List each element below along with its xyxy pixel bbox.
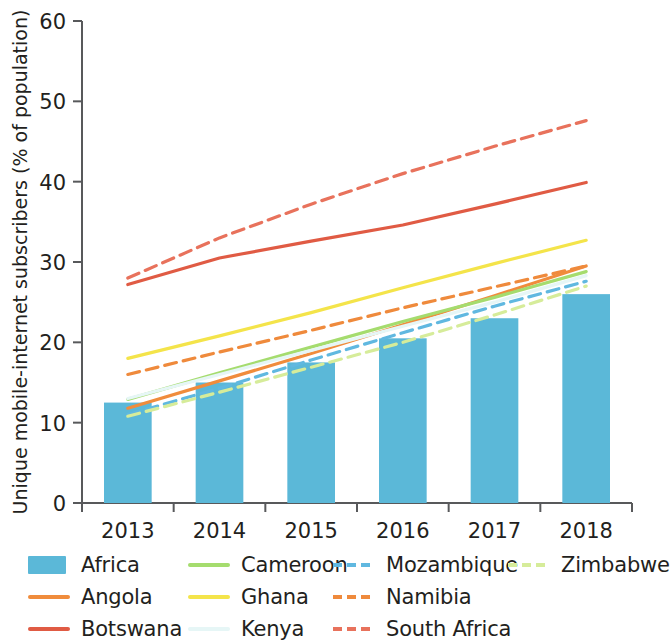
legend-entry-africa[interactable]: Africa bbox=[28, 549, 188, 581]
legend-label: Africa bbox=[81, 553, 140, 577]
legend-entry-south-africa[interactable]: South Africa bbox=[333, 613, 508, 641]
y-axis-ticks bbox=[73, 21, 82, 503]
y-tick-label-10: 10 bbox=[39, 412, 66, 436]
y-tick-label-60: 60 bbox=[39, 10, 66, 34]
y-tick-label-50: 50 bbox=[39, 90, 66, 114]
y-tick-label-40: 40 bbox=[39, 171, 66, 195]
x-tick-label-2015: 2015 bbox=[284, 519, 337, 543]
legend-swatch-cameroon-icon bbox=[188, 556, 232, 574]
legend-dashed-line-icon bbox=[333, 563, 375, 567]
bar-2014 bbox=[196, 383, 244, 504]
legend-label: Kenya bbox=[241, 617, 304, 641]
legend-line-icon bbox=[28, 627, 70, 631]
plot-area: Unique mobile-internet subscribers (% of… bbox=[0, 0, 644, 545]
legend-entry-ghana[interactable]: Ghana bbox=[188, 581, 333, 613]
legend-label: Zimbabwe bbox=[561, 553, 670, 577]
legend-bar-icon bbox=[28, 556, 66, 574]
legend-swatch-ghana-icon bbox=[188, 588, 232, 606]
legend-swatch-angola-icon bbox=[28, 588, 72, 606]
chart-legend: AfricaCameroonMozambiqueZimbabweAngolaGh… bbox=[0, 545, 644, 641]
legend-swatch-botswana-icon bbox=[28, 620, 72, 638]
legend-entry-angola[interactable]: Angola bbox=[28, 581, 188, 613]
legend-swatch-kenya-icon bbox=[188, 620, 232, 638]
legend-entry-cameroon[interactable]: Cameroon bbox=[188, 549, 333, 581]
bars-group bbox=[104, 294, 610, 503]
legend-label: Botswana bbox=[81, 617, 182, 641]
legend-swatch-namibia-icon bbox=[333, 588, 377, 606]
line-botswana bbox=[128, 182, 586, 284]
y-axis-title-group: Unique mobile-internet subscribers (% of… bbox=[9, 10, 31, 515]
legend-label: Ghana bbox=[241, 585, 309, 609]
x-tick-label-2014: 2014 bbox=[193, 519, 246, 543]
legend-line-icon bbox=[188, 627, 230, 631]
legend-line-icon bbox=[188, 595, 230, 599]
x-tick-label-2016: 2016 bbox=[376, 519, 429, 543]
legend-label: South Africa bbox=[386, 617, 511, 641]
legend-entry-namibia[interactable]: Namibia bbox=[333, 581, 508, 613]
bar-2015 bbox=[287, 362, 335, 503]
y-tick-label-20: 20 bbox=[39, 331, 66, 355]
legend-swatch-mozambique-icon bbox=[333, 556, 377, 574]
legend-label: Mozambique bbox=[386, 553, 518, 577]
legend-dashed-line-icon bbox=[333, 595, 375, 599]
legend-dashed-line-icon bbox=[508, 563, 550, 567]
y-tick-label-30: 30 bbox=[39, 251, 66, 275]
x-axis-tick-labels: 201320142015201620172018 bbox=[101, 519, 613, 543]
legend-entry-zimbabwe[interactable]: Zimbabwe bbox=[508, 549, 672, 581]
bar-2017 bbox=[471, 318, 519, 503]
chart-svg: Unique mobile-internet subscribers (% of… bbox=[0, 0, 644, 545]
legend-entry-botswana[interactable]: Botswana bbox=[28, 613, 188, 641]
y-axis-title: Unique mobile-internet subscribers (% of… bbox=[9, 10, 31, 515]
legend-label: Namibia bbox=[386, 585, 472, 609]
legend-label: Cameroon bbox=[241, 553, 348, 577]
legend-label: Angola bbox=[81, 585, 152, 609]
legend-line-icon bbox=[28, 595, 70, 599]
legend-entry-kenya[interactable]: Kenya bbox=[188, 613, 333, 641]
x-tick-label-2018: 2018 bbox=[559, 519, 612, 543]
x-tick-label-2013: 2013 bbox=[101, 519, 154, 543]
legend-swatch-south-africa-icon bbox=[333, 620, 377, 638]
legend-swatch-africa-icon bbox=[28, 556, 72, 574]
bar-2018 bbox=[562, 294, 610, 503]
legend-line-icon bbox=[188, 563, 230, 567]
legend-dashed-line-icon bbox=[333, 627, 375, 631]
x-axis-ticks bbox=[82, 503, 632, 512]
bar-2016 bbox=[379, 338, 427, 503]
legend-swatch-zimbabwe-icon bbox=[508, 556, 552, 574]
legend-grid: AfricaCameroonMozambiqueZimbabweAngolaGh… bbox=[0, 549, 644, 641]
y-tick-label-0: 0 bbox=[53, 492, 66, 516]
y-axis-tick-labels: 0102030405060 bbox=[39, 10, 66, 516]
x-tick-label-2017: 2017 bbox=[468, 519, 521, 543]
legend-entry-mozambique[interactable]: Mozambique bbox=[333, 549, 508, 581]
